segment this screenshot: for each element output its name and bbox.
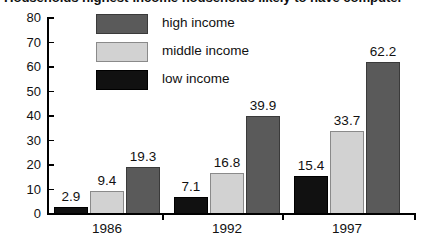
bar-value-label: 9.4	[98, 173, 117, 188]
bar-value-label: 15.4	[298, 158, 324, 173]
bar-value-label: 2.9	[62, 189, 81, 204]
chart-title: Households highest-income households lik…	[4, 0, 423, 6]
bar-1986-middle-income	[90, 191, 124, 214]
bar-value-label: 39.9	[250, 98, 276, 113]
y-axis-tick-label: 30	[0, 133, 41, 148]
bar-value-label: 7.1	[182, 179, 201, 194]
y-axis-tick-label: 10	[0, 182, 41, 197]
bar-1997-middle-income	[330, 131, 364, 214]
x-axis-group-label: 1992	[212, 221, 242, 236]
legend-swatch-low	[96, 70, 148, 90]
bar-value-label: 19.3	[130, 149, 156, 164]
bar-chart: Households highest-income households lik…	[0, 0, 423, 238]
x-axis-line	[47, 213, 416, 215]
bar-1992-middle-income	[210, 173, 244, 214]
bar-1986-high-income	[126, 167, 160, 214]
y-axis-tick-label: 0	[0, 206, 41, 221]
bar-value-label: 62.2	[370, 44, 396, 59]
bar-1997-high-income	[366, 62, 400, 214]
y-axis-tick-label: 20	[0, 157, 41, 172]
x-axis-group-label: 1986	[92, 221, 122, 236]
bar-value-label: 16.8	[214, 155, 240, 170]
y-axis-tick-label: 70	[0, 35, 41, 50]
legend-swatch-high	[96, 14, 148, 34]
y-axis-tick-label: 60	[0, 59, 41, 74]
bar-1992-high-income	[246, 116, 280, 214]
legend-label-high: high income	[162, 15, 235, 30]
bar-1992-low-income	[174, 197, 208, 214]
legend-label-middle: middle income	[162, 43, 249, 58]
y-axis-tick-label: 40	[0, 108, 41, 123]
x-axis-tick	[282, 214, 284, 220]
y-axis-tick-label: 80	[0, 10, 41, 25]
bar-1997-low-income	[294, 176, 328, 214]
x-axis-group-label: 1997	[332, 221, 362, 236]
bar-value-label: 33.7	[334, 113, 360, 128]
legend-swatch-middle	[96, 42, 148, 62]
x-axis-tick	[414, 214, 416, 220]
x-axis-tick	[162, 214, 164, 220]
y-axis-tick-label: 50	[0, 84, 41, 99]
legend-label-low: low income	[162, 71, 230, 86]
